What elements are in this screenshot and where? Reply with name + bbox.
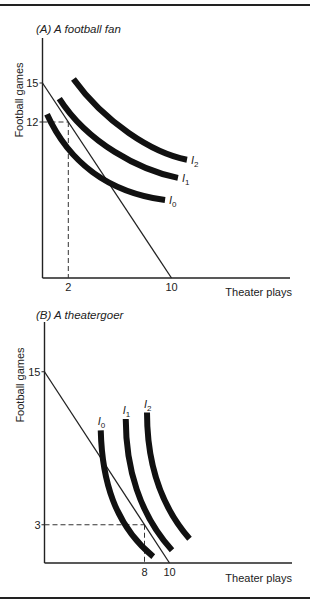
panel-title: (A) A football fan bbox=[36, 23, 121, 35]
y-axis-label: Football games bbox=[14, 347, 26, 423]
curve-label-i1: I1 bbox=[182, 172, 190, 187]
panel-football-fan: (A) A football fan Football games Theate… bbox=[13, 23, 292, 298]
indifference-curve-i2 bbox=[73, 79, 187, 160]
indifference-curve-i1 bbox=[59, 99, 178, 178]
indifference-curve-figure: (A) A football fan Football games Theate… bbox=[0, 0, 310, 606]
curve-label-i2: I2 bbox=[144, 398, 152, 413]
y-axis-label: Football games bbox=[13, 62, 25, 138]
y-tick-label: 15 bbox=[26, 77, 38, 89]
curve-label-i2: I2 bbox=[191, 154, 199, 169]
x-tick-label: 10 bbox=[163, 566, 175, 578]
curve-label-i1: I1 bbox=[123, 404, 131, 419]
x-axis-label: Theater plays bbox=[225, 572, 292, 584]
x-axis-label: Theater plays bbox=[225, 286, 292, 298]
panel-title: (B) A theatergoer bbox=[36, 309, 125, 321]
panel-theatergoer: (B) A theatergoer Football games Theater… bbox=[14, 309, 292, 584]
x-tick-label: 8 bbox=[141, 566, 147, 578]
indifference-curve-i0 bbox=[47, 114, 165, 200]
x-tick-label: 10 bbox=[165, 281, 177, 293]
x-tick-label: 2 bbox=[65, 281, 71, 293]
curve-label-i0: I0 bbox=[98, 415, 106, 430]
y-tick-label: 12 bbox=[26, 116, 38, 128]
curve-label-i0: I0 bbox=[169, 194, 177, 209]
y-tick-label: 15 bbox=[28, 366, 40, 378]
y-tick-label: 3 bbox=[34, 519, 40, 531]
